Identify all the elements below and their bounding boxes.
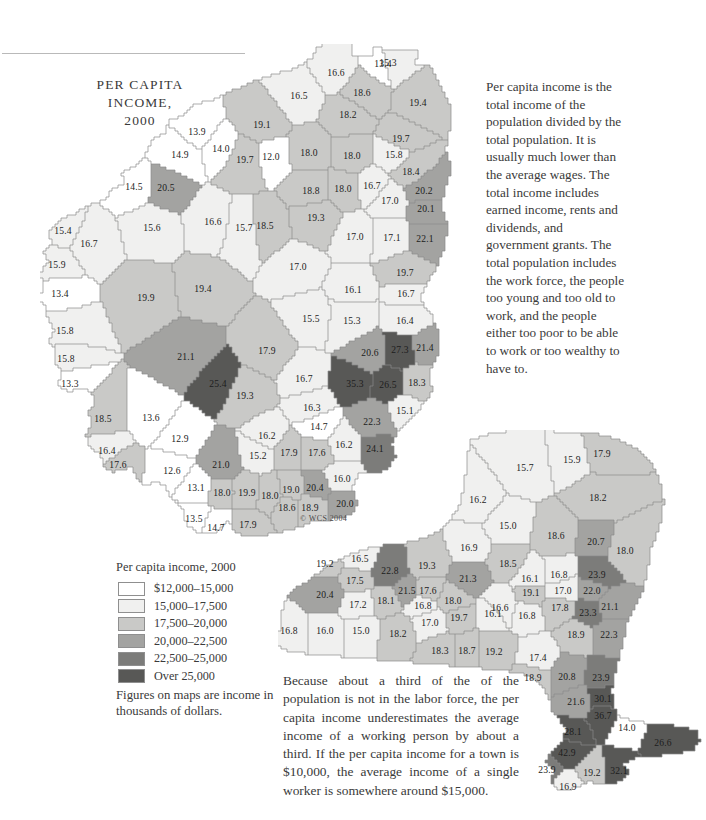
- map-value-label: 16.8: [518, 610, 536, 621]
- map-value-label: 22.3: [363, 416, 381, 427]
- map-value-label: 16.7: [80, 238, 98, 249]
- map-value-label: 17.6: [419, 585, 437, 596]
- map-value-label: 20.6: [361, 347, 379, 358]
- map-value-label: 26.6: [654, 737, 672, 748]
- legend-label: 20,000–22,500: [154, 634, 227, 649]
- legend-swatch: [118, 652, 145, 666]
- map-value-label: 17.9: [280, 447, 298, 458]
- map-value-label: 18.0: [616, 545, 634, 556]
- map-value-label: 22.8: [381, 565, 399, 576]
- map-value-label: 18.7: [458, 645, 476, 656]
- map-value-label: 17.4: [529, 652, 547, 663]
- legend-label: 15,000–17,500: [154, 599, 227, 614]
- map-value-label: 16.8: [414, 600, 432, 611]
- map-value-label: 19.7: [236, 154, 254, 165]
- map-value-label: 18.3: [408, 377, 426, 388]
- map-value-label: 19.1: [522, 587, 540, 598]
- legend-swatch: [118, 599, 145, 613]
- map-value-label: 15.3: [343, 315, 361, 326]
- legend-swatch: [118, 669, 145, 683]
- map-value-label: 18.4: [402, 166, 420, 177]
- legend-row: 17,500–20,000: [116, 615, 286, 633]
- map-value-label: 18.6: [353, 87, 371, 98]
- map-value-label: 18.2: [589, 492, 607, 503]
- map-value-label: 13.3: [61, 378, 79, 389]
- map-value-label: 23.9: [588, 569, 606, 580]
- legend-row: 22,500–25,000: [116, 650, 286, 668]
- map-value-label: 19.9: [137, 292, 155, 303]
- title-line-1: PER CAPITA: [70, 76, 210, 94]
- map-value-label: 17.1: [383, 232, 401, 243]
- map-value-label: 19.1: [253, 119, 271, 130]
- map-value-label: 18.0: [343, 150, 361, 161]
- map-value-label: 20.1: [417, 203, 435, 214]
- atlas-page: PER CAPITA INCOME, 2000 13.415.316.618.6…: [0, 0, 706, 820]
- map-value-label: 19.4: [194, 283, 212, 294]
- map-value-label: 16.8: [550, 569, 568, 580]
- map-value-label: 16.7: [363, 180, 381, 191]
- legend-label: 17,500–20,000: [154, 616, 227, 631]
- map-value-label: 27.3: [391, 344, 409, 355]
- map-value-label: 18.2: [389, 628, 407, 639]
- map-value-label: 16.2: [469, 494, 487, 505]
- map-value-label: 16.1: [344, 284, 362, 295]
- map-value-label: 23.9: [538, 764, 556, 775]
- map-value-label: 18.0: [261, 490, 279, 501]
- map-value-label: 19.7: [450, 612, 468, 623]
- map-value-label: 16.4: [396, 315, 414, 326]
- map-value-label: 15.6: [143, 222, 161, 233]
- map-value-label: 16.6: [327, 67, 345, 78]
- map-value-label: 15.0: [499, 520, 517, 531]
- legend-swatch: [118, 582, 145, 596]
- map-value-label: 15.1: [396, 405, 414, 416]
- map-value-label: 19.7: [392, 133, 410, 144]
- map-value-label: 16.2: [335, 439, 353, 450]
- map-value-label: 36.7: [594, 710, 612, 721]
- map-value-label: 14.7: [207, 522, 225, 533]
- map-value-label: 21.4: [416, 342, 434, 353]
- legend-label: $12,000–15,000: [154, 581, 233, 596]
- map-value-label: 20.4: [306, 482, 324, 493]
- map-value-label: 16.1: [484, 608, 502, 619]
- map-value-label: 35.3: [346, 378, 364, 389]
- map-value-label: 18.0: [444, 595, 462, 606]
- map-value-label: 19.2: [583, 767, 601, 778]
- map-value-label: 17.2: [349, 599, 367, 610]
- map-value-label: 13.4: [51, 288, 69, 299]
- legend-footnote: Figures on maps are income in thousands …: [116, 688, 286, 719]
- map-value-label: 15.7: [516, 462, 534, 473]
- map-value-label: 42.9: [558, 747, 576, 758]
- map-value-label: 19.0: [282, 484, 300, 495]
- map-value-label: 15.8: [56, 325, 74, 336]
- map-value-label: 14.7: [310, 421, 328, 432]
- map-value-label: 21.1: [177, 351, 195, 362]
- legend-row: 15,000–17,500: [116, 598, 286, 616]
- map-value-label: 23.9: [592, 672, 610, 683]
- map-value-label: 17.9: [239, 519, 257, 530]
- map-value-label: 21.6: [567, 696, 585, 707]
- header-rule: [2, 53, 245, 54]
- map-value-label: 16.0: [333, 473, 351, 484]
- map-value-label: 16.6: [204, 216, 222, 227]
- map-value-label: 18.8: [302, 185, 320, 196]
- map-value-label: 16.1: [521, 573, 539, 584]
- legend-rows: $12,000–15,00015,000–17,50017,500–20,000…: [116, 580, 286, 685]
- map-value-label: 30.1: [594, 693, 612, 704]
- map-value-label: 17.0: [554, 585, 572, 596]
- map-value-label: 16.9: [559, 781, 577, 792]
- map-value-label: 17.0: [421, 617, 439, 628]
- map-value-label: 13.1: [187, 482, 205, 493]
- map-value-label: 18.5: [256, 220, 274, 231]
- map-value-label: 12.0: [262, 151, 280, 162]
- map-value-label: 15.5: [302, 313, 320, 324]
- map-value-label: 18.0: [300, 147, 318, 158]
- map-value-label: 22.3: [600, 629, 618, 640]
- map-value-label: 18.5: [94, 413, 112, 424]
- map-value-label: 24.1: [366, 443, 384, 454]
- map-value-label: 21.3: [459, 573, 477, 584]
- legend-row: 20,000–22,500: [116, 633, 286, 651]
- map-value-label: 16.0: [316, 625, 334, 636]
- map-value-label: 21.1: [601, 601, 619, 612]
- map-value-label: 13.6: [142, 412, 160, 423]
- map-value-label: 18.0: [213, 487, 231, 498]
